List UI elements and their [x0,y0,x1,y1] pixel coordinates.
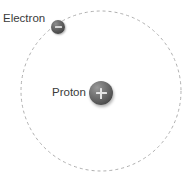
atom-diagram: Electron Proton [0,0,186,177]
proton-label: Proton [52,86,86,99]
minus-icon [55,26,62,28]
plus-icon [96,88,107,99]
electron-label: Electron [3,12,45,25]
proton-particle [89,81,113,105]
electron-particle [51,20,65,34]
